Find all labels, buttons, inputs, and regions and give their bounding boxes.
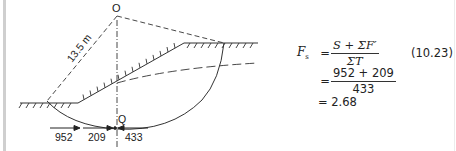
general-numerator: S + ΣF′ [331,39,379,54]
equation-line-3: = 2.68 [297,94,396,110]
equation-line-2: = 952 + 209 433 [297,70,396,92]
numeric-numerator: 952 + 209 [331,67,396,82]
equation-number: (10.23) [411,46,453,60]
numeric-fraction: 952 + 209 433 [331,67,396,96]
force-label-433: 433 [125,131,143,143]
force-label-952: 952 [55,131,73,143]
phreatic-line [117,63,258,83]
general-fraction: S + ΣF′ ΣT [331,39,379,68]
slope-stability-diagram: O 13.5 m Q 952 209 433 [0,0,290,151]
radius-label: 13.5 m [64,31,93,64]
force-label-209: 209 [88,131,106,143]
equals-sign-2: = [319,74,331,88]
center-label: O [112,2,121,14]
equation-lhs: Fs [297,45,319,61]
equation-result: = 2.68 [318,95,357,109]
page-edge-rule [454,0,455,151]
equals-sign: = [319,46,331,60]
factor-of-safety-equation: Fs = S + ΣF′ ΣT (10.23) = 952 + 209 433 … [297,42,396,110]
force-arrows [50,126,148,131]
equation-line-1: Fs = S + ΣF′ ΣT (10.23) [297,42,396,64]
ground-hatching [19,43,253,108]
point-q-label: Q [118,113,126,125]
